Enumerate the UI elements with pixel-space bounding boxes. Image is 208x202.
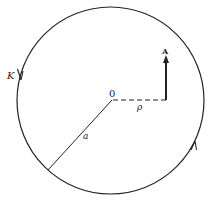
vector-label: A — [161, 46, 169, 56]
distance-label: ρ — [136, 102, 143, 112]
radius-line — [48, 100, 112, 170]
diagram-canvas: K 0 a ρ A — [0, 0, 208, 202]
radius-label: a — [83, 131, 88, 141]
vector-arrowhead-icon — [163, 55, 169, 63]
contour-circle — [17, 7, 204, 194]
origin-label: 0 — [109, 88, 115, 99]
contour-label: K — [6, 70, 15, 81]
